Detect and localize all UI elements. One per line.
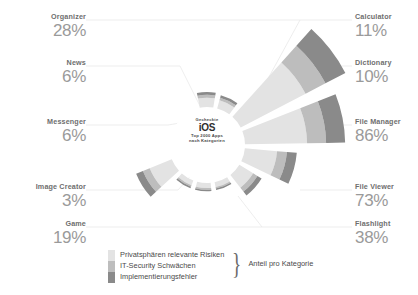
label-organizer-value: 28% [0, 21, 86, 40]
label-image-creator: Image Creator 3% [0, 182, 86, 210]
legend-label-security: IT-Security Schwächen [120, 260, 224, 271]
leader-line-4 [86, 196, 262, 227]
infographic-root: Gecheckte iOS Top 2000 Apps nach Kategor… [0, 0, 418, 295]
legend-swatch-implement [108, 272, 115, 283]
legend: Privatsphären relevante Risiken IT-Secur… [108, 249, 224, 283]
label-organizer: Organizer 28% [0, 12, 86, 40]
label-news-name: News [0, 58, 86, 67]
label-messenger-value: 6% [0, 126, 86, 145]
label-messenger-name: Messenger [0, 117, 86, 126]
label-flashlight-name: Flashlight [355, 219, 418, 228]
label-image-creator-value: 3% [0, 191, 86, 210]
center-hub-circle [170, 108, 244, 182]
label-file-manager-name: File Manager [355, 117, 418, 126]
label-messenger: Messenger 6% [0, 117, 86, 145]
wedge-group [136, 29, 345, 197]
label-file-manager: File Manager 86% [355, 117, 418, 145]
leader-line-1 [86, 66, 200, 106]
label-organizer-name: Organizer [0, 12, 86, 21]
label-flashlight-value: 38% [355, 228, 418, 247]
label-calculator-value: 11% [355, 21, 418, 40]
label-file-manager-value: 86% [355, 126, 418, 145]
label-file-viewer-value: 73% [355, 191, 418, 210]
bracket-label: Anteil pro Kategorie [248, 259, 313, 268]
label-image-creator-name: Image Creator [0, 182, 86, 191]
legend-swatch-security [108, 261, 115, 272]
label-game-name: Game [0, 219, 86, 228]
label-flashlight: Flashlight 38% [355, 219, 418, 247]
label-game-value: 19% [0, 228, 86, 247]
label-game: Game 19% [0, 219, 86, 247]
legend-swatch-privacy [108, 250, 115, 261]
legend-label-privacy: Privatsphären relevante Risiken [120, 249, 224, 260]
label-news: News 6% [0, 58, 86, 86]
label-calculator-name: Calculator [355, 12, 418, 21]
label-file-viewer: File Viewer 73% [355, 182, 418, 210]
curly-brace-icon: } [232, 248, 241, 278]
legend-label-implement: Implementierungsfehler [120, 271, 224, 282]
bracket-annotation: } Anteil pro Kategorie [232, 248, 313, 278]
label-calculator: Calculator 11% [355, 12, 418, 40]
label-dictionary: Dictionary 10% [355, 58, 418, 86]
legend-swatches [108, 250, 115, 283]
label-file-viewer-name: File Viewer [355, 182, 418, 191]
label-dictionary-name: Dictionary [355, 58, 418, 67]
legend-labels: Privatsphären relevante Risiken IT-Secur… [120, 249, 224, 282]
label-news-value: 6% [0, 67, 86, 86]
wedge-calculator-band-1 [198, 98, 215, 108]
wedge-messenger-band-1 [196, 182, 211, 188]
leader-line-2 [86, 122, 186, 125]
label-dictionary-value: 10% [355, 67, 418, 86]
